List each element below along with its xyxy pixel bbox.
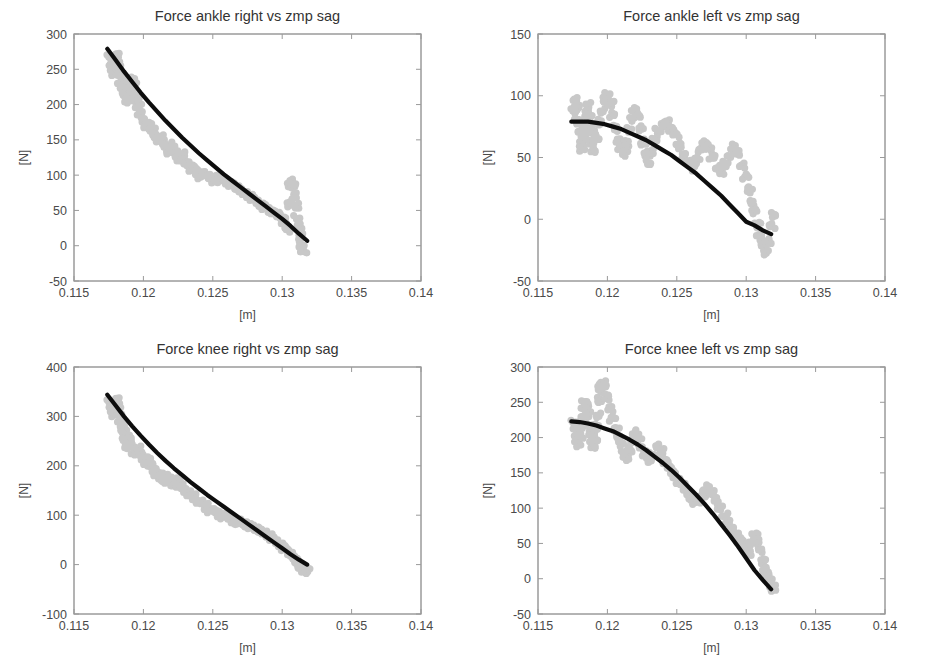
y-tick-label: 0 (60, 239, 67, 253)
y-tick-label: 100 (510, 502, 531, 516)
x-tick-label: 0.135 (800, 619, 831, 633)
y-tick-label: 300 (46, 28, 67, 42)
scatter-point (766, 221, 773, 228)
scatter-point (719, 503, 726, 510)
scatter-point (702, 146, 709, 153)
y-tick-label: 150 (510, 28, 531, 42)
scatter-point (606, 90, 613, 97)
fit-curve (571, 421, 771, 589)
plot-title: Force knee right vs zmp sag (156, 341, 338, 357)
scatter-point (657, 446, 664, 453)
y-tick-label: 50 (517, 537, 531, 551)
plot-frame-overlay (74, 367, 421, 614)
x-axis-label: [m] (239, 308, 256, 322)
y-tick-label: 200 (46, 459, 67, 473)
x-tick-label: 0.135 (336, 286, 367, 300)
plot-title: Force ankle right vs zmp sag (155, 8, 340, 24)
scatter-point (594, 398, 601, 405)
y-tick-label: 100 (46, 509, 67, 523)
x-axis-label: [m] (703, 641, 720, 655)
plot-svg-force-ankle-right: Force ankle right vs zmp sag0.1150.120.1… (0, 0, 463, 333)
scatter-point (716, 170, 723, 177)
y-axis-label: [N] (17, 150, 31, 165)
subplot-force-knee-right: Force knee right vs zmp sag0.1150.120.12… (0, 333, 463, 666)
scatter-point (592, 147, 599, 154)
scatter-layer (567, 89, 779, 258)
scatter-point (757, 556, 764, 563)
y-tick-label: -50 (513, 275, 531, 289)
scatter-point (610, 112, 617, 119)
x-tick-label: 0.14 (873, 619, 897, 633)
scatter-point (593, 413, 600, 420)
scatter-layer (103, 50, 310, 257)
x-tick-label: 0.13 (734, 286, 758, 300)
scatter-point (735, 147, 742, 154)
plot-frame (74, 367, 421, 614)
scatter-point (623, 141, 630, 148)
x-tick-label: 0.135 (800, 286, 831, 300)
y-tick-label: 100 (510, 89, 531, 103)
y-tick-label: 100 (46, 169, 67, 183)
y-tick-label: 200 (46, 98, 67, 112)
y-tick-label: 250 (46, 63, 67, 77)
x-tick-label: 0.12 (595, 286, 619, 300)
x-axis-label: [m] (703, 308, 720, 322)
scatter-point (635, 124, 642, 131)
y-tick-label: 300 (510, 361, 531, 375)
y-tick-label: 0 (524, 572, 531, 586)
x-tick-label: 0.14 (409, 286, 433, 300)
scatter-point (730, 524, 737, 531)
scatter-point (590, 135, 597, 142)
x-tick-label: 0.14 (409, 619, 433, 633)
x-tick-label: 0.14 (873, 286, 897, 300)
scatter-point (772, 587, 779, 594)
y-tick-label: 150 (46, 133, 67, 147)
scatter-point (691, 158, 698, 165)
y-tick-label: 50 (53, 204, 67, 218)
scatter-point (724, 152, 731, 159)
subplot-force-knee-left: Force knee left vs zmp sag0.1150.120.125… (464, 333, 927, 666)
y-tick-label: 200 (510, 431, 531, 445)
scatter-point (290, 181, 297, 188)
y-axis-label: [N] (481, 150, 495, 165)
x-tick-label: 0.13 (734, 619, 758, 633)
x-tick-label: 0.12 (595, 619, 619, 633)
scatter-point (677, 140, 684, 147)
scatter-point (711, 152, 718, 159)
figure-canvas: Force ankle right vs zmp sag0.1150.120.1… (0, 0, 927, 667)
y-tick-label: 250 (510, 396, 531, 410)
x-tick-label: 0.125 (197, 619, 228, 633)
y-axis-label: [N] (17, 483, 31, 498)
scatter-point (582, 410, 589, 417)
scatter-point (582, 100, 589, 107)
scatter-point (605, 391, 612, 398)
plot-title: Force ankle left vs zmp sag (623, 8, 800, 24)
scatter-point (625, 456, 632, 463)
y-tick-label: 300 (46, 410, 67, 424)
scatter-point (577, 441, 584, 448)
subplot-force-ankle-left: Force ankle left vs zmp sag0.1150.120.12… (464, 0, 927, 333)
x-tick-label: 0.12 (131, 619, 155, 633)
subplot-force-ankle-right: Force ankle right vs zmp sag0.1150.120.1… (0, 0, 463, 333)
x-tick-label: 0.125 (661, 286, 692, 300)
scatter-point (602, 383, 609, 390)
x-axis-label: [m] (239, 641, 256, 655)
y-tick-label: -100 (42, 608, 67, 622)
plot-svg-force-knee-right: Force knee right vs zmp sag0.1150.120.12… (0, 333, 463, 666)
scatter-point (771, 211, 778, 218)
x-tick-label: 0.13 (270, 286, 294, 300)
scatter-point (747, 200, 754, 207)
plot-svg-force-ankle-left: Force ankle left vs zmp sag0.1150.120.12… (464, 0, 927, 333)
scatter-point (297, 248, 304, 255)
y-tick-label: 0 (60, 558, 67, 572)
scatter-point (745, 174, 752, 181)
scatter-point (118, 428, 125, 435)
scatter-point (768, 240, 775, 247)
plot-title: Force knee left vs zmp sag (625, 341, 798, 357)
scatter-point (646, 160, 653, 167)
x-tick-label: 0.135 (336, 619, 367, 633)
y-tick-label: -50 (513, 608, 531, 622)
scatter-point (619, 148, 626, 155)
scatter-point (634, 110, 641, 117)
scatter-point (744, 184, 751, 191)
